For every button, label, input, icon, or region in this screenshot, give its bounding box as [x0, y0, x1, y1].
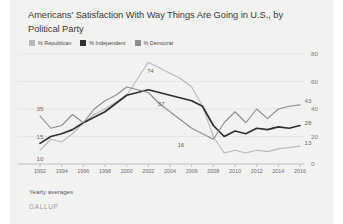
chart-card: Americans' Satisfaction With Way Things …	[10, 0, 333, 224]
x-axis-tick-label: 1994	[56, 168, 68, 174]
y-axis-tick-label: 20	[311, 133, 318, 140]
x-axis-tick-label: 1998	[99, 168, 111, 174]
data-point-label: 43	[305, 96, 312, 103]
chart-legend: % Republican % Independent % Democrat	[29, 40, 173, 46]
legend-label-independent: % Independent	[89, 40, 125, 46]
data-point-label: 74	[147, 67, 154, 74]
footer-note: Yearly averages	[29, 188, 73, 195]
series-line-republican	[40, 62, 300, 153]
legend-item-independent[interactable]: % Independent	[80, 40, 125, 46]
legend-item-democrat[interactable]: % Democrat	[135, 40, 174, 46]
legend-swatch-independent	[80, 40, 86, 46]
x-axis-tick-label: 2000	[121, 168, 133, 174]
data-point-label: 16	[177, 140, 184, 147]
x-axis-tick-label: 2016	[294, 168, 306, 174]
x-axis-labels: 1992199419961998200020022004200620082010…	[10, 168, 333, 180]
legend-item-republican[interactable]: % Republican	[29, 40, 71, 46]
plot-area: 020406080 351510743716432813	[10, 48, 333, 173]
legend-label-republican: % Republican	[38, 40, 71, 46]
x-axis-tick-label: 2002	[142, 168, 154, 174]
x-axis-tick-label: 2012	[251, 168, 263, 174]
chart-title: Americans' Satisfaction With Way Things …	[28, 9, 303, 36]
x-axis-tick-label: 2008	[207, 168, 219, 174]
x-axis-tick-label: 2004	[164, 168, 176, 174]
legend-swatch-republican	[29, 40, 35, 46]
x-axis-tick-label: 1992	[34, 168, 46, 174]
y-axis-tick-label: 40	[311, 105, 318, 112]
legend-label-democrat: % Democrat	[144, 40, 174, 46]
x-axis-tick-label: 2010	[229, 168, 241, 174]
plot-svg	[10, 48, 333, 173]
source-brand: GALLUP	[29, 203, 58, 210]
x-axis-tick-label: 2006	[186, 168, 198, 174]
data-point-label: 13	[305, 139, 312, 146]
legend-swatch-democrat	[135, 40, 141, 46]
x-axis-tick-label: 1996	[77, 168, 89, 174]
series-line-independent	[40, 90, 300, 144]
x-axis-tick-label: 2014	[272, 168, 284, 174]
data-point-label: 35	[37, 104, 44, 111]
y-axis-tick-label: 80	[311, 50, 318, 57]
data-point-label: 37	[158, 100, 165, 107]
y-axis-tick-label: 0	[311, 160, 314, 167]
data-point-label: 28	[305, 118, 312, 125]
y-axis-tick-label: 60	[311, 78, 318, 85]
data-point-label: 10	[37, 155, 44, 162]
data-point-label: 15	[37, 133, 44, 140]
